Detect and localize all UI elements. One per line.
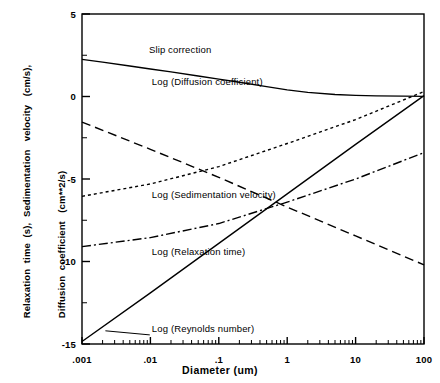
x-axis-title: Diameter (um)	[0, 364, 440, 376]
annotation-leader-lines	[105, 331, 149, 335]
data-series-group	[82, 59, 424, 341]
series-label-0: Slip correction	[149, 44, 211, 55]
plot-frame	[82, 14, 424, 344]
y-tick-label-0: 5	[71, 9, 77, 20]
series-label-3: Log (Relaxation time)	[152, 246, 245, 257]
y-tick-label-4: -15	[62, 339, 77, 350]
axes-frame	[82, 14, 424, 344]
series-line-4	[82, 96, 424, 342]
y-axis-title-line-3: Diffusion coefficient (cm**2/s)	[56, 65, 68, 319]
y-axis-title-line-2: Relaxation time (s), Sedimentation veloc…	[21, 65, 33, 319]
y-axis-title: Slip correction & Reynolds number (dimen…	[0, 0, 58, 383]
series-line-2	[82, 92, 424, 197]
series-label-4: Log (Reynolds number)	[152, 323, 254, 334]
series-label-2: Log (Sedimentation velocity)	[152, 189, 276, 200]
curve-labels-group: Slip correctionLog (Diffusion coefficien…	[149, 44, 276, 335]
x-axis-major-ticks	[82, 337, 424, 344]
chart-figure: Slip correctionLog (Diffusion coefficien…	[0, 0, 440, 383]
reynolds-leader-line	[105, 331, 149, 335]
y-axis-title-text: Slip correction & Reynolds number (dimen…	[0, 65, 95, 319]
series-label-1: Log (Diffusion coefficient)	[152, 76, 263, 87]
